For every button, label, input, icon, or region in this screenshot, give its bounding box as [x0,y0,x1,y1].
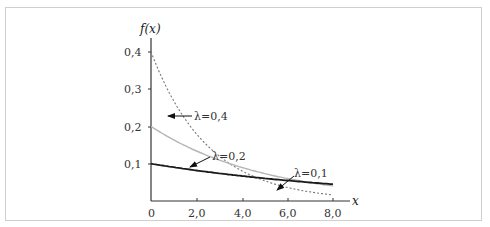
y-tick-label: 0,4 [124,46,142,59]
annotation-lambda-0.4: λ=0,4 [194,110,228,123]
chart: f(x) x 0,1 0,2 0,3 0,4 0 2,0 4,0 6,0 8,0… [0,0,490,227]
y-tick-label: 0,1 [124,158,142,171]
y-tick-label: 0,3 [124,83,142,96]
annotation-lambda-0.1: λ=0,1 [294,167,328,180]
y-tick-label: 0,2 [124,121,142,134]
x-tick-label: 4,0 [234,207,252,220]
annotation-lambda-0.2: λ=0,2 [212,150,246,163]
x-tick-label: 0 [148,207,155,220]
x-tick-label: 6,0 [279,207,297,220]
x-tick-label: 2,0 [188,207,206,220]
x-tick-label: 8,0 [324,207,342,220]
y-axis-label: f(x) [139,22,161,36]
arrow-lambda-0.2 [190,157,210,167]
x-axis-label: x [352,194,359,208]
